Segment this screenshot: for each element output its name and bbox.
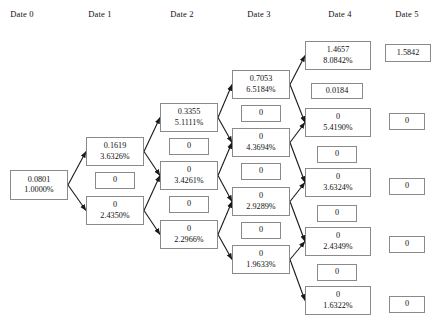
tree-node-d3z2: 0 — [241, 222, 281, 239]
node-value: 0 — [187, 165, 191, 176]
tree-edge-d1n1-to-d2n2 — [144, 211, 160, 235]
node-rate: 5.1111% — [175, 118, 203, 129]
node-value: 0 — [113, 175, 117, 186]
tree-edge-d3n3-to-d4n3 — [290, 242, 305, 260]
node-rate: 2.4349% — [323, 242, 352, 253]
tree-node-d1n1: 02.4350% — [86, 196, 144, 225]
node-rate: 3.6324% — [323, 183, 352, 194]
node-value: 0 — [335, 208, 339, 219]
tree-node-d2n1: 03.4261% — [160, 161, 218, 190]
tree-node-d1n0: 0.16193.6326% — [86, 137, 144, 166]
node-rate: 2.2966% — [174, 235, 203, 246]
node-value: 0 — [405, 299, 409, 310]
tree-node-d3z1: 0 — [241, 163, 281, 180]
node-rate: 3.6326% — [100, 152, 129, 163]
node-rate: 3.4261% — [174, 176, 203, 187]
node-value: 0 — [336, 231, 340, 242]
node-rate: 1.6322% — [323, 301, 352, 312]
date-header-0: Date 0 — [0, 9, 62, 19]
tree-node-d5n0: 1.5842 — [385, 44, 431, 62]
node-value: 0 — [187, 224, 191, 235]
node-rate: 2.4350% — [100, 211, 129, 222]
node-value: 0.0801 — [28, 175, 51, 186]
tree-edge-d3n0-to-d4n1 — [290, 85, 305, 123]
binomial-tree-diagram: Date 0Date 1Date 2Date 3Date 4Date 5 0.0… — [0, 0, 442, 336]
tree-edge-d3n2-to-d4n3 — [290, 202, 305, 242]
node-rate: 5.4190% — [323, 123, 352, 134]
date-header-3: Date 3 — [219, 9, 299, 19]
node-rate: 1.0000% — [24, 185, 53, 196]
tree-node-d4n1: 05.4190% — [305, 108, 371, 137]
tree-edge-d2n0-to-d3n0 — [218, 85, 232, 118]
node-value: 0 — [187, 199, 191, 210]
tree-node-d2n2: 02.2966% — [160, 220, 218, 249]
tree-node-d3n1: 04.3694% — [232, 128, 290, 157]
tree-edge-d2n1-to-d3n1 — [218, 143, 232, 176]
tree-edge-d3n3-to-d4n4 — [290, 260, 305, 301]
node-value: 0.3355 — [178, 107, 201, 118]
tree-node-d2n0: 0.33555.1111% — [160, 103, 218, 132]
tree-edges-layer — [0, 0, 442, 336]
tree-edge-d3n1-to-d4n1 — [290, 123, 305, 143]
node-value: 0 — [405, 181, 409, 192]
tree-node-d3n0: 0.70536.5184% — [232, 70, 290, 99]
tree-node-d2z0: 0 — [169, 138, 209, 155]
tree-edge-d2n0-to-d3n1 — [218, 118, 232, 143]
tree-node-d4z0: 0.0184 — [311, 83, 363, 99]
node-value: 0 — [113, 200, 117, 211]
tree-node-d5n3: 0 — [389, 236, 425, 253]
tree-node-d3n3: 01.9633% — [232, 245, 290, 274]
tree-node-d4n2: 03.6324% — [305, 168, 371, 197]
tree-node-d4z3: 0 — [317, 264, 357, 281]
tree-edge-d3n1-to-d4n2 — [290, 143, 305, 183]
tree-node-d5n1: 0 — [389, 113, 425, 130]
tree-edge-d1n0-to-d2n0 — [144, 118, 160, 152]
node-rate: 1.9633% — [246, 260, 275, 271]
node-value: 0 — [259, 249, 263, 260]
date-header-1: Date 1 — [60, 9, 140, 19]
node-value: 0 — [187, 141, 191, 152]
tree-edge-d2n1-to-d3n2 — [218, 176, 232, 202]
tree-node-d4z1: 0 — [317, 146, 357, 163]
tree-node-d1z0: 0 — [95, 172, 135, 189]
tree-node-d4n0: 1.46578.0842% — [305, 41, 371, 70]
node-value: 0 — [336, 290, 340, 301]
node-value: 0 — [259, 108, 263, 119]
date-header-2: Date 2 — [142, 9, 222, 19]
tree-edge-d0n0-to-d1n0 — [68, 152, 86, 186]
tree-edge-d1n0-to-d2n1 — [144, 152, 160, 176]
tree-node-d2z1: 0 — [169, 196, 209, 213]
tree-edge-d2n2-to-d3n2 — [218, 202, 232, 235]
node-value: 0 — [335, 149, 339, 160]
node-value: 0.0184 — [326, 86, 349, 97]
node-rate: 4.3694% — [246, 143, 275, 154]
tree-node-d4z2: 0 — [317, 205, 357, 222]
tree-node-d5n4: 0 — [389, 296, 425, 313]
tree-node-d3z0: 0 — [241, 105, 281, 122]
date-header-5: Date 5 — [367, 9, 442, 19]
tree-edge-d2n2-to-d3n3 — [218, 235, 232, 260]
node-value: 0 — [335, 267, 339, 278]
node-value: 0 — [405, 116, 409, 127]
node-value: 0 — [259, 225, 263, 236]
tree-node-d0n0: 0.08011.0000% — [10, 170, 68, 200]
node-value: 0 — [259, 191, 263, 202]
node-value: 1.4657 — [327, 45, 350, 56]
tree-node-d4n3: 02.4349% — [305, 227, 371, 256]
node-value: 0.1619 — [104, 141, 127, 152]
node-value: 0 — [259, 166, 263, 177]
tree-node-d4n4: 01.6322% — [305, 286, 371, 315]
tree-edge-d1n1-to-d2n1 — [144, 176, 160, 211]
node-rate: 8.0842% — [323, 56, 352, 67]
node-value: 0.7053 — [250, 74, 273, 85]
tree-node-d5n2: 0 — [389, 178, 425, 195]
node-rate: 2.9289% — [246, 202, 275, 213]
tree-edge-d3n2-to-d4n2 — [290, 183, 305, 202]
node-value: 1.5842 — [397, 48, 420, 59]
node-rate: 6.5184% — [246, 85, 275, 96]
tree-edge-d3n0-to-d4n0 — [290, 56, 305, 85]
node-value: 0 — [259, 132, 263, 143]
node-value: 0 — [336, 112, 340, 123]
node-value: 0 — [336, 172, 340, 183]
node-value: 0 — [405, 239, 409, 250]
